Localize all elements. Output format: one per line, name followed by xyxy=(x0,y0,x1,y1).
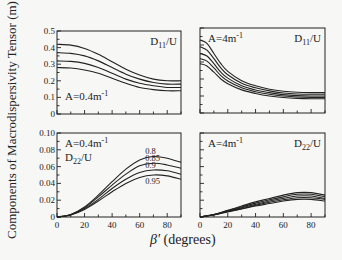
y-tick-label: 0.5 xyxy=(44,26,56,36)
panel-annotation: A=4m-1 xyxy=(208,136,243,149)
x-tick-label: 20 xyxy=(223,220,233,230)
panel-title: D22/U xyxy=(294,137,321,152)
y-tick-label: 0.3 xyxy=(44,59,56,69)
x-tick-label: 40 xyxy=(251,220,261,230)
x-tick-label: 80 xyxy=(307,220,317,230)
x-tick-label: 20 xyxy=(80,220,90,230)
series-line-0.9 xyxy=(57,170,181,217)
panel-bottom-right: 020406080D22/UA=4m-1 xyxy=(198,133,325,230)
y-tick-label: 0.4 xyxy=(44,43,56,53)
panel-title: D11/U xyxy=(150,35,177,50)
x-tick-label: 60 xyxy=(279,220,289,230)
y-tick-label: 0.1 xyxy=(44,92,55,102)
figure-canvas: 00.10.20.30.40.5D11/UA=0.4m-1D11/UA=4m-1… xyxy=(0,0,342,260)
x-axis-unit: (degrees) xyxy=(163,232,215,247)
y-tick-label: 0 xyxy=(51,109,56,119)
panel-title: D22/U xyxy=(65,151,92,166)
series-line-0.95 xyxy=(57,175,181,217)
x-tick-label: 60 xyxy=(135,220,145,230)
series-line-s1 xyxy=(200,40,325,93)
panel-annotation: A=0.4m-1 xyxy=(65,89,108,102)
y-axis-label: Components of Macrodispersivity Tensor (… xyxy=(4,1,20,239)
y-tick-label: 0.04 xyxy=(39,178,55,188)
y-tick-label: 0.10 xyxy=(39,128,55,138)
x-axis-symbol: β' xyxy=(150,232,160,247)
panel-annotation: A=4m-1 xyxy=(208,31,243,44)
y-tick-label: 0.2 xyxy=(44,76,55,86)
panel-bottom-left: 00.020.040.060.080.100204060800.80.850.9… xyxy=(39,128,181,230)
y-tick-label: 0.02 xyxy=(39,195,55,205)
panel-top-left: 00.10.20.30.40.5D11/UA=0.4m-1 xyxy=(44,26,181,119)
series-line-0.85 xyxy=(57,163,181,217)
x-tick-label: 0 xyxy=(198,220,203,230)
x-tick-label: 80 xyxy=(163,220,173,230)
series-label: 0.9 xyxy=(145,160,156,170)
x-tick-label: 40 xyxy=(108,220,118,230)
panel-annotation: A=0.4m-1 xyxy=(65,136,108,149)
y-tick-label: 0.08 xyxy=(39,145,55,155)
panel-title: D11/U xyxy=(294,32,321,47)
panel-top-right: D11/UA=4m-1 xyxy=(200,28,325,113)
x-tick-label: 0 xyxy=(55,220,60,230)
x-axis-label: β' (degrees) xyxy=(150,232,216,248)
y-axis-label-container: Components of Macrodispersivity Tensor (… xyxy=(0,20,24,220)
series-label: 0.95 xyxy=(145,176,160,186)
y-tick-label: 0.06 xyxy=(39,162,55,172)
